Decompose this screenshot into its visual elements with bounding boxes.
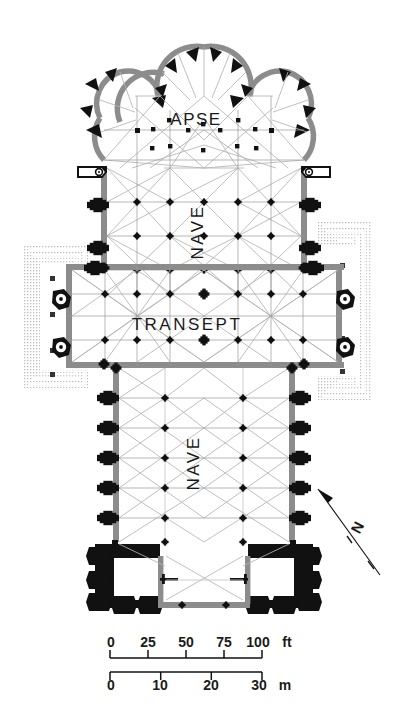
scale-tick-m-20: 20 [203, 677, 219, 693]
west-tower-left [86, 540, 163, 614]
scale-tick-ft-100: 100 [246, 634, 270, 650]
label-transept: TRANSEPT [132, 315, 243, 334]
scale-tick-m-30: 30 [251, 677, 267, 693]
scale-unit-m: m [279, 677, 291, 693]
scale-tick-m-0: 0 [107, 677, 115, 693]
scale-tick-m-10: 10 [152, 677, 168, 693]
cloister-hatch-right [318, 222, 372, 400]
label-apse: APSE [170, 110, 221, 129]
scale-tick-ft-75: 75 [216, 634, 232, 650]
scale-tick-ft-50: 50 [178, 634, 194, 650]
west-tower-right [245, 540, 322, 614]
label-nave-lower: NAVE [184, 435, 203, 490]
scale-tick-ft-0: 0 [107, 634, 115, 650]
label-nave-upper: NAVE [188, 204, 207, 259]
cathedral-floor-plan: APSE NAVE TRANSEPT NAVE N 0 25 [0, 0, 408, 709]
scale-tick-ft-25: 25 [140, 634, 156, 650]
scale-unit-ft: ft [282, 634, 292, 650]
plan-svg: APSE NAVE TRANSEPT NAVE N 0 25 [0, 0, 408, 709]
